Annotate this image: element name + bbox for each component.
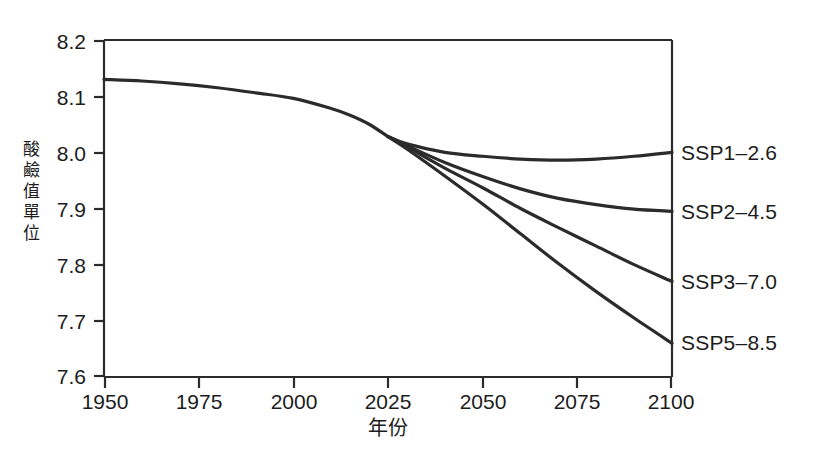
data-curves xyxy=(104,79,672,343)
ytick-label-8-2: 8.2 xyxy=(34,30,86,54)
xtick-label-2075: 2075 xyxy=(542,390,612,414)
ytick-label-7-8: 7.8 xyxy=(34,254,86,278)
xtick-label-2000: 2000 xyxy=(259,390,329,414)
xtick-label-2025: 2025 xyxy=(353,390,423,414)
ytick-label-7-7: 7.7 xyxy=(34,310,86,334)
xtick-label-2050: 2050 xyxy=(448,390,518,414)
series-label-ssp5-8-5: SSP5–8.5 xyxy=(681,331,777,355)
curve-ssp2-4-5 xyxy=(388,137,672,212)
axis-frame xyxy=(104,40,672,377)
xtick-label-1950: 1950 xyxy=(70,390,140,414)
y-axis-ticks xyxy=(94,41,104,376)
series-label-ssp1-2-6: SSP1–2.6 xyxy=(681,141,777,165)
series-label-ssp3-7-0: SSP3–7.0 xyxy=(681,270,777,294)
y-axis-title: 酸鹼值單位 xyxy=(16,139,46,244)
xtick-label-2100: 2100 xyxy=(636,390,706,414)
curve-ssp5-8-5 xyxy=(388,137,672,344)
xtick-label-1975: 1975 xyxy=(164,390,234,414)
ytick-label-8-1: 8.1 xyxy=(34,86,86,110)
curve-historical xyxy=(104,79,388,136)
x-axis-title: 年份 xyxy=(328,412,448,441)
ytick-label-7-6: 7.6 xyxy=(34,365,86,389)
series-label-ssp2-4-5: SSP2–4.5 xyxy=(681,200,777,224)
x-axis-ticks xyxy=(105,377,671,388)
chart-figure: 8.2 8.1 8.0 7.9 7.8 7.7 7.6 1950 1975 20… xyxy=(0,0,817,466)
